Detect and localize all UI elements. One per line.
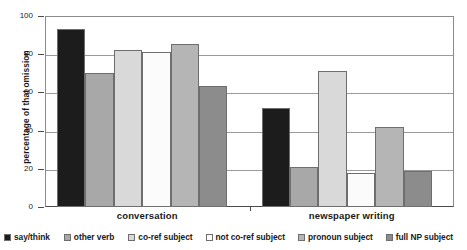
legend-item-label: pronoun subject — [308, 232, 373, 242]
y-axis-tick-mark — [38, 169, 44, 170]
bar — [142, 52, 170, 207]
bar — [318, 71, 346, 207]
legend-item-label: co-ref subject — [138, 232, 192, 242]
bar — [199, 86, 227, 207]
legend-swatch-icon — [206, 234, 213, 241]
bar-series-layer — [45, 16, 454, 207]
legend-item[interactable]: co-ref subject — [128, 232, 192, 242]
y-axis-tick-mark — [38, 16, 44, 17]
legend-swatch-icon — [386, 234, 393, 241]
y-axis-tick-label: 60 — [0, 87, 33, 96]
bar — [114, 50, 142, 207]
legend-item[interactable]: full NP subject — [386, 232, 453, 242]
y-axis-tick-mark — [38, 92, 44, 93]
y-axis-tick-label: 40 — [0, 126, 33, 135]
legend-swatch-icon — [128, 234, 135, 241]
legend-swatch-icon — [298, 234, 305, 241]
legend-item[interactable]: other verb — [64, 232, 114, 242]
legend-item[interactable]: say/think — [4, 232, 50, 242]
y-axis-tick-mark — [38, 54, 44, 55]
legend-item-label: other verb — [74, 232, 114, 242]
y-axis-tick-mark — [38, 207, 44, 208]
bar — [375, 127, 403, 207]
x-axis-category-label: newspaper writing — [250, 210, 455, 221]
bar — [262, 108, 290, 207]
legend-item-label: full NP subject — [396, 232, 453, 242]
legend-item[interactable]: pronoun subject — [298, 232, 373, 242]
y-axis-tick-label: 80 — [0, 49, 33, 58]
bar — [85, 73, 113, 207]
y-axis-tick-label: 0 — [0, 202, 33, 211]
y-axis-tick-mark — [38, 131, 44, 132]
legend-item-label: say/think — [14, 232, 50, 242]
legend-swatch-icon — [64, 234, 71, 241]
legend-item[interactable]: not co-ref subject — [206, 232, 285, 242]
chart-legend: say/thinkother verbco-ref subjectnot co-… — [4, 230, 467, 244]
y-axis-tick-label: 20 — [0, 164, 33, 173]
legend-item-label: not co-ref subject — [216, 232, 285, 242]
x-axis-group-separator — [250, 207, 251, 211]
chart-container: percentage of that omission 020406080100… — [0, 0, 467, 250]
bar — [347, 173, 375, 207]
x-axis-category-label: conversation — [45, 210, 250, 221]
bar — [57, 29, 85, 207]
bar — [404, 171, 432, 207]
legend-swatch-icon — [4, 234, 11, 241]
y-axis-tick-label: 100 — [0, 11, 33, 20]
bar — [290, 167, 318, 207]
bar — [171, 44, 199, 207]
